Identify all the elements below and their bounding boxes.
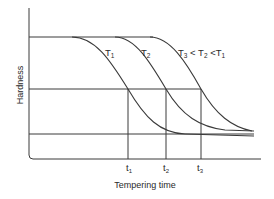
y-axis-label: Hardness	[15, 65, 25, 104]
x-axis-label: Tempering time	[114, 180, 176, 190]
curve-label-t1: T1	[105, 47, 115, 59]
tick-label-t2: t2	[163, 162, 170, 174]
tick-label-t3: t3	[197, 162, 204, 174]
curve-t1	[72, 37, 254, 136]
y-axis	[29, 8, 33, 159]
curve-label-t2: T2	[141, 47, 151, 59]
hardness-tempering-diagram: T1 T2 T3 < T2 <T1 t1 t2 t3 Tempering tim…	[0, 0, 274, 199]
tick-label-t1: t1	[126, 162, 133, 174]
temperature-relation-annotation: T3 < T2 <T1	[178, 47, 226, 59]
